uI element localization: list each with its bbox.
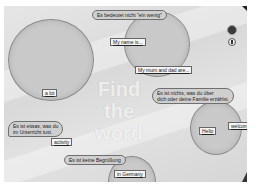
game-stage: a lot Es bedeutet nicht "ein wenig" My n… <box>4 6 247 182</box>
info-button[interactable] <box>228 38 236 46</box>
close-button[interactable] <box>227 25 237 35</box>
corner-accent <box>242 172 247 182</box>
clue-bubble[interactable]: Es bedeutet nicht "ein wenig" <box>92 10 167 20</box>
answer-label[interactable]: My mum and dad are... <box>135 66 192 74</box>
clue-line: dich oder deine Familie erzählst. <box>157 96 229 102</box>
clue-bubble[interactable]: Es ist nichts, was du über dich oder dei… <box>152 88 234 104</box>
answer-label[interactable]: a lot <box>42 89 57 97</box>
clue-bubble[interactable]: Es ist etwas, was du im Unterricht tust. <box>8 121 63 137</box>
game-title: Find the word <box>79 78 159 144</box>
answer-label[interactable]: Hello <box>199 127 216 135</box>
clue-bubble[interactable]: Es ist keine Begrüßung <box>64 155 126 165</box>
answer-label[interactable]: welcome <box>228 122 247 130</box>
answer-label[interactable]: My name is... <box>110 38 146 46</box>
answer-label[interactable]: activity <box>51 138 72 146</box>
title-line-2: the word <box>79 100 159 144</box>
clue-line: im Unterricht tust. <box>13 129 58 135</box>
corner-accent <box>242 6 247 11</box>
title-line-1: Find <box>79 78 159 100</box>
answer-label[interactable]: in Germany <box>114 170 146 178</box>
